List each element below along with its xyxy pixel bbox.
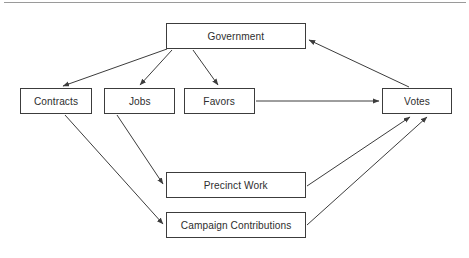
node-contracts-label: Contracts: [34, 96, 78, 107]
node-campaign-contributions-label: Campaign Contributions: [181, 220, 292, 231]
node-favors-label: Favors: [204, 96, 235, 107]
node-votes-label: Votes: [404, 96, 430, 107]
node-favors[interactable]: Favors: [184, 88, 255, 114]
edge-government-to-contracts: [63, 49, 167, 86]
edge-government-to-jobs: [140, 50, 172, 85]
diagram-canvas: Government Contracts Jobs Favors Votes P…: [0, 0, 469, 258]
node-contracts[interactable]: Contracts: [20, 88, 92, 114]
edge-precinct-to-votes: [307, 117, 410, 186]
node-jobs[interactable]: Jobs: [104, 88, 175, 114]
node-precinct-work-label: Precinct Work: [204, 180, 268, 191]
node-votes[interactable]: Votes: [382, 88, 452, 114]
edge-campaign-to-votes: [307, 117, 427, 225]
node-government[interactable]: Government: [166, 23, 306, 49]
edge-contracts-to-campaign: [65, 115, 163, 224]
node-jobs-label: Jobs: [129, 96, 151, 107]
node-campaign-contributions[interactable]: Campaign Contributions: [166, 212, 306, 238]
node-precinct-work[interactable]: Precinct Work: [166, 172, 306, 198]
edge-votes-to-government: [309, 40, 409, 87]
edge-government-to-favors: [193, 50, 218, 85]
node-government-label: Government: [208, 31, 265, 42]
edge-jobs-to-precinct: [117, 115, 163, 184]
